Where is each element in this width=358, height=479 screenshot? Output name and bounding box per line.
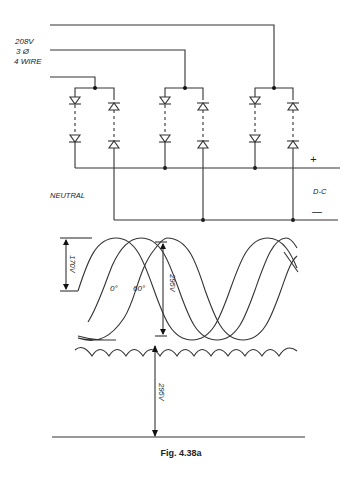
supply-lines: [50, 25, 274, 88]
neutral-label: NEUTRAL: [50, 191, 85, 200]
diode-icon: [109, 103, 119, 110]
diode-icon: [198, 103, 208, 110]
dc-label: D-C: [313, 187, 327, 196]
diode-group-3: [249, 86, 299, 222]
diode-icon: [288, 103, 298, 110]
diode-icon: [250, 97, 260, 104]
diode-icon: [198, 141, 208, 148]
peak-to-peak-label: 295V: [168, 273, 177, 293]
supply-voltage-label: 208V: [14, 37, 34, 46]
diode-group-2: [159, 86, 209, 222]
phase-line-3: [50, 77, 95, 88]
rectifier-diagram: 208V 3 Ø 4 WIRE: [0, 0, 358, 479]
angle-label-60: 60°: [133, 284, 146, 293]
diode-icon: [109, 141, 119, 148]
phase-line-2: [50, 50, 185, 88]
phase-line-1: [50, 25, 274, 88]
diode-icon: [70, 135, 80, 142]
rectified-ripple: [75, 348, 297, 356]
minus-label: —: [311, 206, 323, 217]
diode-icon: [250, 135, 260, 142]
plus-label: +: [310, 153, 317, 165]
supply-phase-label: 3 Ø: [16, 47, 30, 56]
peak-voltage-label: 170V: [68, 255, 77, 274]
angle-label-0: 0°: [110, 284, 118, 293]
diode-icon: [160, 97, 170, 104]
diode-icon: [70, 97, 80, 104]
supply-wire-label: 4 WIRE: [14, 57, 42, 66]
figure-caption: Fig. 4.38a: [160, 448, 202, 458]
diode-icon: [288, 141, 298, 148]
dc-output-voltage-label: 295V: [157, 382, 166, 402]
diode-icon: [160, 135, 170, 142]
